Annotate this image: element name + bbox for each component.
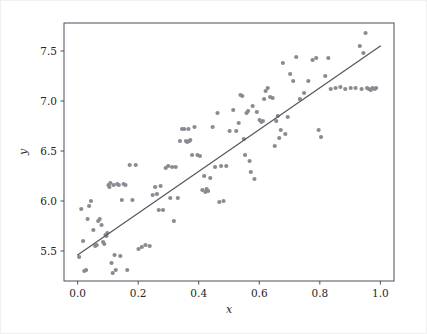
data-point	[221, 199, 225, 203]
data-point	[117, 183, 121, 187]
data-point	[231, 108, 235, 112]
data-point	[266, 86, 270, 90]
data-point	[206, 189, 210, 193]
data-point	[86, 217, 90, 221]
data-point	[353, 86, 357, 90]
data-point	[87, 204, 91, 208]
data-point	[234, 129, 238, 133]
data-point	[157, 208, 161, 212]
data-point	[120, 198, 124, 202]
data-point	[176, 196, 180, 200]
data-point	[112, 253, 116, 257]
data-point	[246, 109, 250, 113]
data-point	[294, 55, 298, 59]
data-point	[148, 244, 152, 248]
data-point	[374, 86, 378, 90]
data-point	[155, 192, 159, 196]
data-point	[343, 87, 347, 91]
data-point	[213, 165, 217, 169]
data-point	[271, 96, 275, 100]
x-tick-label: 1.0	[372, 287, 389, 299]
data-point	[326, 56, 330, 60]
data-point	[349, 86, 353, 90]
y-tick-label: 6.0	[40, 195, 57, 207]
data-point	[140, 245, 144, 249]
x-tick-label: 0.8	[311, 287, 328, 299]
data-point	[112, 183, 116, 187]
x-tick-label: 0.0	[69, 287, 86, 299]
data-point	[111, 271, 115, 275]
data-point	[172, 219, 176, 223]
data-point	[310, 58, 314, 62]
data-point	[262, 97, 266, 101]
data-point	[107, 185, 111, 189]
scatter-plot: 0.00.20.40.60.81.0 5.56.06.57.07.5 x y	[1, 1, 427, 334]
data-point	[219, 164, 223, 168]
data-point	[178, 139, 182, 143]
data-point	[283, 132, 287, 136]
data-point	[81, 239, 85, 243]
y-tick-label: 7.5	[40, 45, 57, 57]
data-point	[182, 127, 186, 131]
x-tick-label: 0.4	[190, 287, 207, 299]
data-point	[174, 165, 178, 169]
y-axis-title: y	[17, 148, 30, 156]
data-point	[277, 136, 281, 140]
data-point	[161, 208, 165, 212]
data-point	[279, 128, 283, 132]
x-axis-ticks: 0.00.20.40.60.81.0	[69, 281, 388, 299]
data-point	[190, 153, 194, 157]
data-point	[208, 176, 212, 180]
data-point	[329, 87, 333, 91]
data-point	[79, 207, 83, 211]
data-point	[217, 200, 221, 204]
y-tick-label: 5.5	[40, 245, 57, 257]
data-point	[151, 193, 155, 197]
data-point	[358, 44, 362, 48]
data-point	[286, 115, 290, 119]
data-point	[123, 183, 127, 187]
data-point	[317, 128, 321, 132]
data-point	[291, 79, 295, 83]
data-point	[255, 110, 259, 114]
y-tick-label: 6.5	[40, 145, 57, 157]
data-point	[237, 121, 241, 125]
data-point	[186, 127, 190, 131]
data-point	[314, 56, 318, 60]
data-point	[249, 170, 253, 174]
y-tick-label: 7.0	[40, 95, 57, 107]
data-point	[118, 254, 122, 258]
data-point	[128, 163, 132, 167]
data-point	[224, 164, 228, 168]
data-point	[319, 135, 323, 139]
data-point	[243, 153, 247, 157]
data-point	[114, 268, 118, 272]
data-point	[363, 31, 367, 35]
data-point	[333, 86, 337, 90]
x-axis-title: x	[226, 303, 233, 316]
data-point	[188, 138, 192, 142]
data-point	[281, 61, 285, 65]
data-point	[125, 268, 129, 272]
data-point	[158, 184, 162, 188]
plot-background	[64, 23, 394, 281]
data-point	[192, 125, 196, 129]
data-point	[91, 228, 95, 232]
data-point	[89, 199, 93, 203]
data-point	[247, 159, 251, 163]
y-axis-ticks: 5.56.06.57.07.5	[40, 45, 64, 257]
data-point	[302, 91, 306, 95]
data-point	[202, 174, 206, 178]
x-tick-label: 0.6	[251, 287, 268, 299]
data-point	[360, 87, 364, 91]
data-point	[134, 163, 138, 167]
data-point	[102, 242, 106, 246]
data-point	[261, 119, 265, 123]
x-tick-label: 0.2	[130, 287, 147, 299]
data-point	[98, 217, 102, 221]
data-point	[166, 164, 170, 168]
data-point	[168, 196, 172, 200]
data-point	[143, 243, 147, 247]
data-point	[240, 94, 244, 98]
data-point	[361, 51, 365, 55]
